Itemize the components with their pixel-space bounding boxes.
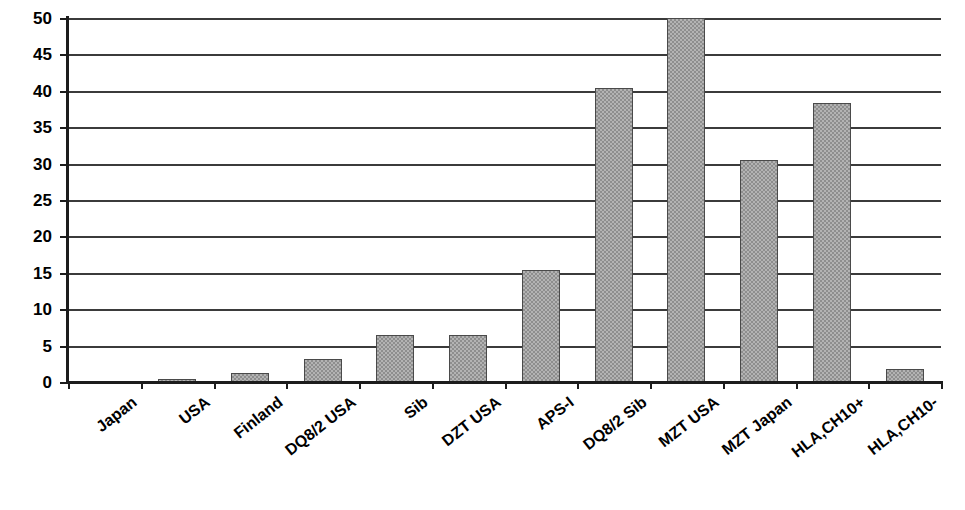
y-tick-label: 15 <box>0 264 52 281</box>
x-category-label: APS-I <box>533 394 576 433</box>
y-tick-label: 45 <box>0 46 52 63</box>
bar <box>522 270 560 382</box>
x-category-label: DZT USA <box>439 394 503 449</box>
y-tick-label: 35 <box>0 119 52 136</box>
bar <box>813 103 851 382</box>
x-category-label: MZT USA <box>656 394 722 450</box>
x-category-label: USA <box>177 394 213 427</box>
x-category-label: DQ8/2 USA <box>282 394 358 459</box>
bar <box>740 160 778 382</box>
bar <box>376 335 414 382</box>
bar <box>449 335 487 382</box>
x-category-label: HLA,CH10+ <box>789 394 868 461</box>
bar-series <box>68 18 941 382</box>
y-tick-label: 40 <box>0 82 52 99</box>
y-tick-label: 5 <box>0 337 52 354</box>
y-tick-label: 30 <box>0 155 52 172</box>
y-tick-label: 10 <box>0 301 52 318</box>
y-tick-label: 50 <box>0 10 52 27</box>
bar <box>667 18 705 382</box>
x-category-label: DQ8/2 Sib <box>580 394 649 453</box>
x-category-label: Sib <box>402 394 431 422</box>
x-axis-category-labels: JapanUSAFinlandDQ8/2 USASibDZT USAAPS-ID… <box>0 382 965 510</box>
bar <box>595 88 633 382</box>
x-category-label: MZT Japan <box>719 394 795 458</box>
x-category-label: Finland <box>231 394 286 442</box>
y-axis-line <box>66 16 69 384</box>
y-tick-label: 20 <box>0 228 52 245</box>
bar-chart: 05101520253035404550 JapanUSAFinlandDQ8/… <box>0 0 965 510</box>
y-tick-label: 25 <box>0 192 52 209</box>
x-category-label: HLA,CH10- <box>865 394 941 458</box>
x-category-label: Japan <box>94 394 140 435</box>
bar <box>304 359 342 382</box>
